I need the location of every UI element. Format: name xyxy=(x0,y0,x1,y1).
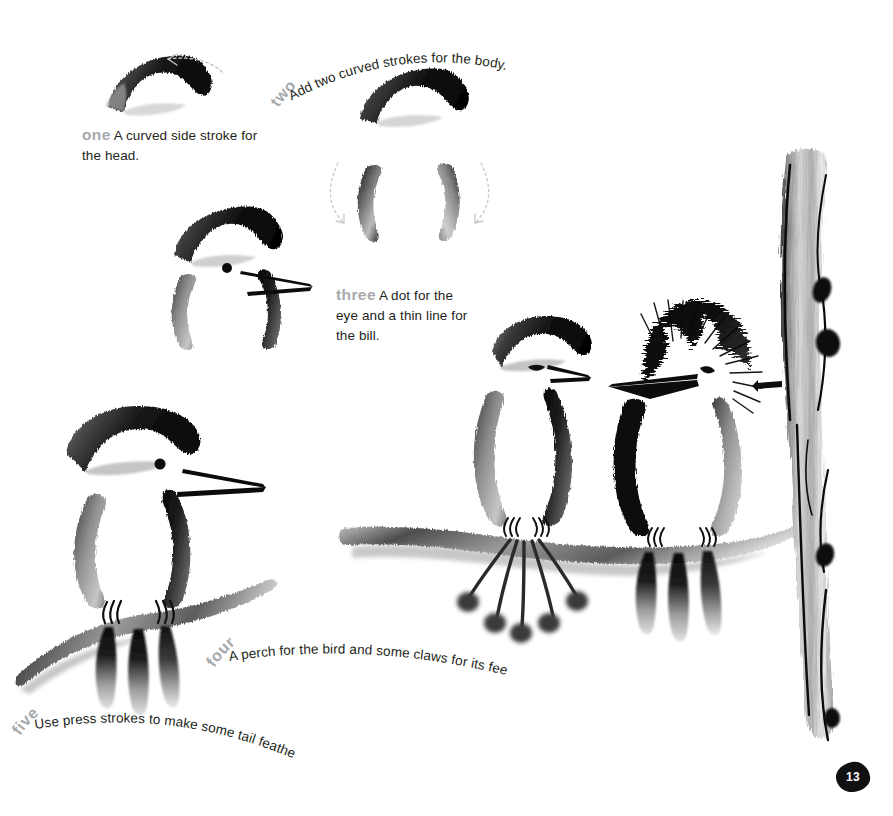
bird-with-eye-and-bill-step-three xyxy=(172,207,313,351)
bird-bill-upper xyxy=(608,374,698,387)
svg-text:Add two curved strokes for the: Add two curved strokes for the body. xyxy=(286,50,509,103)
tail-feathers xyxy=(96,626,180,716)
bird-crest xyxy=(644,300,751,382)
bird-claws xyxy=(504,518,548,536)
bird-bill-lower xyxy=(177,487,266,497)
bird-bill-lower xyxy=(610,380,699,399)
bird-eye xyxy=(700,366,715,373)
step-three-number: three xyxy=(336,286,376,303)
bird-bill-lower xyxy=(247,287,312,296)
bird-eye xyxy=(528,365,545,371)
step-five-text: Use press strokes to make some tail feat… xyxy=(0,0,298,761)
finished-bird-pair-on-branch xyxy=(339,300,797,643)
head-stroke-step-two xyxy=(360,69,469,127)
bird-bill-upper xyxy=(547,365,591,378)
caption-step-one: oneA curved side stroke for the head. xyxy=(82,125,272,166)
stroke-direction-arrow-step-one xyxy=(168,54,222,72)
page-number-label: 13 xyxy=(846,770,860,784)
bird-left xyxy=(457,316,592,643)
step-two-text: Add two curved strokes for the body. xyxy=(286,50,509,103)
svg-text:Use press strokes to make some: Use press strokes to make some tail feat… xyxy=(0,0,298,761)
svg-text:five: five xyxy=(9,704,42,738)
trunk-bark-lines xyxy=(785,165,828,740)
bird-tail-plume-tips xyxy=(457,591,588,643)
bird-bill-lower xyxy=(550,377,591,383)
bird-claws xyxy=(648,528,715,546)
head-stroke-step-one xyxy=(106,55,212,115)
bird-bill-upper xyxy=(240,271,313,287)
artwork-canvas: two Add two curved strokes for the body.… xyxy=(0,0,893,816)
trunk-twig xyxy=(756,381,782,389)
tutorial-page: two Add two curved strokes for the body.… xyxy=(0,0,893,816)
tree-trunk xyxy=(752,149,843,740)
caption-step-three: threeA dot for the eye and a thin line f… xyxy=(336,285,476,346)
step-two-number: two xyxy=(267,76,299,109)
bird-eye xyxy=(222,263,232,273)
bird-tail-plumes xyxy=(470,540,576,626)
bird-on-perch-step-four-five xyxy=(15,406,278,716)
bird-claws xyxy=(103,601,173,623)
page-number-badge: 13 xyxy=(836,762,870,792)
step-four-number: four xyxy=(203,633,238,670)
bird-right-crested xyxy=(608,300,762,642)
bird-bill-upper xyxy=(182,469,266,488)
tail-feathers xyxy=(636,551,722,642)
trunk-twig-tip xyxy=(752,380,758,392)
caption-step-five: five Use press strokes to make some tail… xyxy=(0,0,298,761)
bird-crest-spikes xyxy=(641,300,762,413)
svg-text:two: two xyxy=(267,76,299,109)
svg-text:four: four xyxy=(203,633,238,670)
stroke-direction-arrows-step-two xyxy=(330,163,488,223)
step-five-number: five xyxy=(9,704,42,738)
body-strokes-step-two xyxy=(358,163,460,242)
trunk-knots xyxy=(809,275,842,728)
bird-eye xyxy=(155,459,166,470)
branch xyxy=(339,527,797,564)
perch-branch xyxy=(15,579,278,686)
caption-step-two: two Add two curved strokes for the body. xyxy=(267,50,509,110)
step-one-number: one xyxy=(82,126,111,143)
